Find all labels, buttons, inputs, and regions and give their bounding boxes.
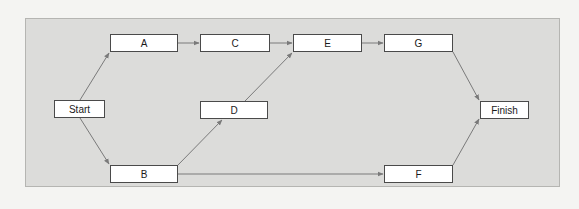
node-label: D — [230, 105, 237, 116]
node-b: B — [110, 165, 178, 183]
node-label: G — [415, 38, 423, 49]
node-finish: Finish — [480, 101, 529, 119]
edge-start-to-B — [80, 118, 109, 164]
node-g: G — [384, 34, 453, 52]
edge-F-to-finish — [453, 119, 479, 165]
node-c: C — [200, 34, 270, 52]
edge-B-to-D — [178, 120, 222, 165]
edge-D-to-E — [245, 53, 292, 101]
node-start: Start — [54, 100, 105, 118]
node-label: F — [415, 169, 421, 180]
node-label: Start — [69, 104, 90, 115]
node-label: Finish — [491, 105, 518, 116]
node-label: A — [141, 38, 148, 49]
node-label: E — [324, 38, 331, 49]
edge-start-to-A — [80, 53, 109, 100]
node-label: B — [141, 169, 148, 180]
node-a: A — [110, 34, 178, 52]
node-label: C — [231, 38, 238, 49]
node-d: D — [200, 101, 268, 119]
node-e: E — [293, 34, 362, 52]
node-f: F — [384, 165, 453, 183]
edge-G-to-finish — [453, 52, 479, 100]
